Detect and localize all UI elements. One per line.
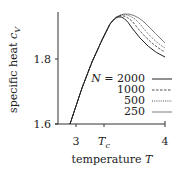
x-axis-label: temperature T [72, 153, 155, 166]
legend: N = 2000 1000 500 250 [90, 72, 172, 118]
x-tick-label: 4 [162, 135, 169, 148]
legend-label-n250: 250 [124, 105, 145, 118]
y-tick-label: 1.8 [34, 53, 52, 66]
y-tick-label: 1.6 [34, 118, 52, 131]
series-n500 [70, 15, 165, 124]
x-tick-label: Tc [98, 135, 110, 150]
y-axis-label: specific heat cV [7, 26, 22, 113]
series-n1000 [70, 16, 165, 124]
chart: 1.6 1.8 3 Tc 4 temperature T specific he… [0, 0, 180, 172]
series-n250 [70, 14, 165, 124]
series-n2000 [70, 17, 165, 124]
x-tick-label: 3 [73, 135, 80, 148]
